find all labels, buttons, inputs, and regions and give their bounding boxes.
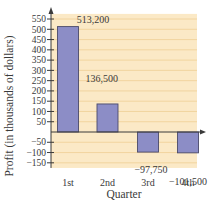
y-tick-label: 200 (32, 86, 47, 96)
profit-bar-chart: 55050045040035030025020015010050−50−100−… (0, 0, 209, 204)
y-tick-label: 250 (32, 76, 47, 86)
bar-value-label: 513,200 (77, 14, 110, 25)
bar-4th (178, 132, 199, 153)
y-tick-label: 100 (32, 107, 47, 117)
y-tick-label: −50 (31, 137, 46, 147)
y-axis-title: Profit (in thousands of dollars) (3, 35, 16, 176)
y-tick-label: 400 (32, 45, 47, 55)
x-category-label: 3rd (141, 177, 154, 188)
bar-3rd (138, 132, 159, 152)
bar-1st (58, 27, 79, 132)
y-tick-label: 550 (32, 14, 47, 24)
y-tick-label: 450 (32, 35, 47, 45)
x-category-label: 1st (62, 177, 74, 188)
x-category-label: 2nd (100, 177, 115, 188)
y-tick-label: 50 (37, 117, 47, 127)
y-tick-label: −150 (26, 158, 46, 168)
x-axis-title: Quarter (106, 188, 141, 200)
y-tick-label: 300 (32, 66, 47, 76)
y-tick-label: 150 (32, 96, 47, 106)
y-tick-label: 500 (32, 25, 47, 35)
y-axis-ticks: 55050045040035030025020015010050−50−100−… (26, 14, 54, 168)
bar-value-label: −101,500 (169, 176, 207, 187)
y-tick-label: 350 (32, 55, 47, 65)
bar-value-label: 136,500 (86, 73, 119, 84)
bar-value-label: −97,750 (134, 164, 167, 175)
y-tick-label: −100 (26, 148, 46, 158)
y-axis-arrow-icon (49, 7, 54, 14)
x-axis-arrow-icon (200, 130, 206, 135)
bar-2nd (97, 104, 118, 132)
